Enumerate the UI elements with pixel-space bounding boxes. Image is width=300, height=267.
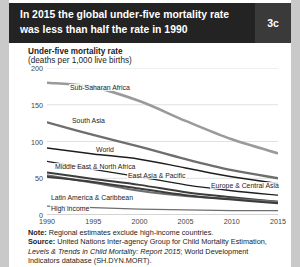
chart-series-lines [47,83,278,211]
series-label-latin-america-caribbean: Latin America & Caribbean [50,194,134,201]
series-label-europe-central-asia: Europe & Central Asia [210,182,280,189]
source-line: Source: United Nations Inter-agency Grou… [28,237,278,265]
note-line: Note: Regional estimates exclude high-in… [28,228,278,237]
chart-axis-title: Under-five mortality rate [28,47,123,56]
x-axis-tick-label: 1990 [32,217,62,226]
note-label: Note: [28,228,47,237]
series-label-world: World [95,146,115,153]
x-axis-tick-label: 2010 [217,217,247,226]
y-axis-tick-label: 200 [21,64,43,73]
series-label-high-income: High income [50,205,90,212]
series-label-middle-east-north-africa: Middle East & North Africa [54,163,136,170]
source-label: Source: [28,237,55,246]
x-axis-tick-label: 1995 [78,217,108,226]
y-axis-tick-label: 50 [21,174,43,183]
y-axis-tick-label: 100 [21,138,43,147]
x-axis-tick-label: 2005 [171,217,201,226]
note-text: Regional estimates exclude high-income c… [47,228,214,237]
y-axis-tick-label: 150 [21,101,43,110]
figure-number-badge: 3c [255,3,291,43]
figure-card: In 2015 the global under-five mortality … [9,0,291,267]
series-label-sub-saharan-africa: Sub-Saharan Africa [69,84,131,91]
source-text-1: United Nations Inter-agency Group for Ch… [55,237,267,246]
x-axis-tick-label: 2000 [124,217,154,226]
figure-notes: Note: Regional estimates exclude high-in… [28,228,278,266]
title-banner: In 2015 the global under-five mortality … [9,3,291,43]
x-axis-tick-label: 2015 [263,217,293,226]
source-italic-title: Levels & Trends in Child Mortality: Repo… [28,247,180,256]
series-label-east-asia-pacific: East Asia & Pacific [127,172,186,179]
series-label-south-asia: South Asia [71,117,106,124]
chart-axis-subtitle: (deaths per 1,000 live births) [28,56,132,65]
page-title: In 2015 the global under-five mortality … [20,8,250,37]
